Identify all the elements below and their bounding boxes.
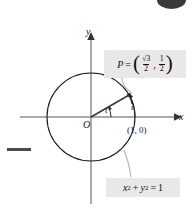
x-numerator: √3 (141, 55, 151, 63)
right-paren: ) (166, 55, 173, 73)
y-axis (87, 32, 94, 204)
angle-arc (108, 106, 112, 117)
equals-sign: = (123, 59, 133, 70)
y-denominator: 2 (159, 64, 165, 73)
x-axis (20, 113, 182, 120)
point-1-0-label: (1, 0) (127, 126, 147, 135)
angle-t-label: t (105, 106, 108, 115)
equation-right-side: 1 (158, 182, 163, 193)
coordinate-separator: , (152, 59, 158, 70)
x-axis-label: x (179, 112, 183, 122)
left-paren: ( (133, 55, 140, 73)
y-coordinate-fraction: 1 2 (159, 55, 165, 73)
leader-line-point (122, 78, 132, 93)
callout-point-coordinates: P = ( √3 2 , 1 2 ) (104, 50, 186, 78)
plus-sign: + (131, 182, 141, 193)
x-denominator: 2 (143, 64, 149, 73)
point-p-marker (127, 93, 131, 97)
leader-line-equation (124, 150, 131, 177)
origin-label: O (83, 120, 90, 130)
margin-rule-artifact (7, 148, 31, 151)
arc-t-label: t (131, 103, 134, 112)
equation-equals-sign: = (148, 182, 158, 193)
y-numerator: 1 (159, 55, 165, 63)
x-coordinate-fraction: √3 2 (141, 55, 151, 73)
point-coordinate-expression: P = ( √3 2 , 1 2 ) (117, 55, 173, 73)
callout-circle-equation: x2 + y2 = 1 (106, 178, 180, 197)
terminal-ray (91, 95, 129, 117)
y-axis-label: y (86, 27, 90, 37)
circle-equation-expression: x2 + y2 = 1 (123, 182, 163, 193)
unit-circle-figure: y x O t t (1, 0) P = ( √3 2 , 1 2 ) x2 +… (0, 0, 193, 211)
